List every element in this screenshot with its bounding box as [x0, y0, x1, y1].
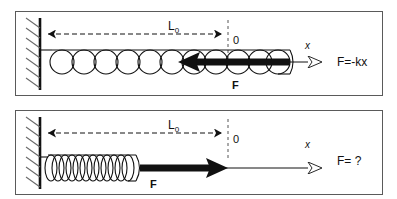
x-axis-label-bottom: x — [305, 140, 310, 150]
panel-stretched-spring — [15, 11, 383, 96]
origin-label-top: 0 — [233, 35, 239, 46]
force-label-top: F — [232, 80, 239, 91]
force-label-bottom: F — [150, 179, 157, 190]
equation-label-bottom: F= ? — [337, 155, 361, 167]
origin-label-bottom: 0 — [233, 134, 239, 145]
x-axis-label-top: x — [305, 41, 310, 51]
panel-compressed-spring — [15, 110, 383, 195]
equation-label-top: F=-kx — [337, 56, 367, 68]
length-label-bottom: L0 — [168, 119, 179, 134]
spring-force-figure: L0 0 x F F=-kx L0 0 x F F= ? — [0, 0, 397, 199]
length-label-top: L0 — [168, 20, 179, 35]
